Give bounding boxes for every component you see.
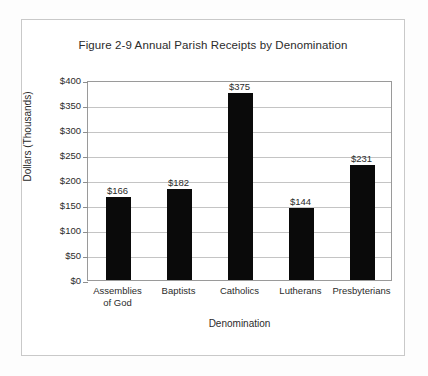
bar-value-label: $231 bbox=[332, 153, 392, 164]
y-axis-tick-label: $50 bbox=[65, 251, 81, 261]
y-axis-tick-mark bbox=[83, 107, 88, 108]
y-axis-tick-mark bbox=[83, 182, 88, 183]
figure-root: Figure 2-9 Annual Parish Receipts by Den… bbox=[0, 0, 428, 376]
y-axis-tick-label: $300 bbox=[60, 126, 81, 136]
y-axis-tick-label: $150 bbox=[60, 201, 81, 211]
y-axis-tick-mark bbox=[83, 257, 88, 258]
x-axis-category-label: Baptists bbox=[145, 285, 213, 297]
bar-value-label: $182 bbox=[149, 177, 209, 188]
y-axis-tick-mark bbox=[83, 282, 88, 283]
y-axis-tick-mark bbox=[83, 232, 88, 233]
y-axis-tick-label: $350 bbox=[60, 101, 81, 111]
bar bbox=[289, 208, 314, 280]
y-axis-tick-label: $250 bbox=[60, 151, 81, 161]
y-axis-tick-mark bbox=[83, 157, 88, 158]
bar-value-label: $166 bbox=[88, 185, 148, 196]
bar-value-label: $144 bbox=[271, 196, 331, 207]
y-axis-tick-label: $400 bbox=[60, 76, 81, 86]
bar bbox=[228, 93, 253, 281]
y-axis-tick-mark bbox=[83, 207, 88, 208]
y-axis-tick-mark bbox=[83, 82, 88, 83]
y-axis-tick-labels: $400$350$300$250$200$150$100$50$0 bbox=[40, 81, 81, 281]
y-axis-tick-label: $200 bbox=[60, 176, 81, 186]
x-axis-title: Denomination bbox=[87, 318, 392, 329]
y-axis-tick-mark bbox=[83, 132, 88, 133]
x-axis-category-label: Lutherans bbox=[267, 285, 335, 297]
bar bbox=[350, 165, 375, 281]
x-axis-category-label: Catholics bbox=[206, 285, 274, 297]
y-axis-tick-label: $100 bbox=[60, 226, 81, 236]
bar bbox=[167, 189, 192, 280]
x-axis-category-label: Assemblies of God bbox=[84, 285, 152, 309]
y-axis-title: Dollars (Thousands) bbox=[22, 72, 33, 202]
plot-area bbox=[87, 81, 392, 281]
bar bbox=[106, 197, 131, 280]
chart-title: Figure 2-9 Annual Parish Receipts by Den… bbox=[21, 39, 405, 51]
x-axis-category-label: Presbyterians bbox=[328, 285, 396, 297]
bar-value-label: $375 bbox=[210, 81, 270, 92]
y-axis-tick-label: $0 bbox=[70, 276, 81, 286]
